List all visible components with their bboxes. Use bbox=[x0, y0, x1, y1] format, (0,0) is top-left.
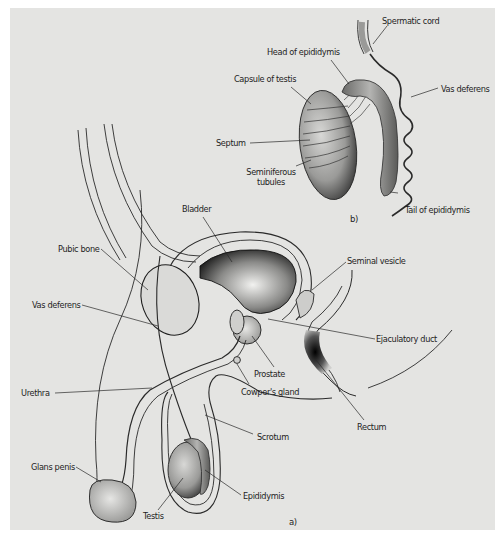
label-seminal-vesicle: Seminal vesicle bbox=[347, 256, 406, 266]
label-ejaculatory-duct: Ejaculatory duct bbox=[376, 334, 437, 344]
label-head-of-epididymis: Head of epididymis bbox=[267, 47, 340, 57]
label-capsule-of-testis: Capsule of testis bbox=[234, 74, 296, 84]
label-vas-deferens-b: Vas deferens bbox=[441, 84, 489, 94]
label-scrotum: Scrotum bbox=[257, 432, 289, 442]
label-spermatic-cord: Spermatic cord bbox=[382, 16, 439, 26]
label-seminiferous-tubules: Seminiferous tubules bbox=[243, 167, 299, 187]
label-septum: Septum bbox=[216, 138, 246, 148]
label-seminiferous-line-1: Seminiferous bbox=[243, 167, 299, 177]
label-vas-deferens-a: Vas deferens bbox=[32, 300, 80, 310]
label-rectum: Rectum bbox=[357, 422, 386, 432]
label-prostate: Prostate bbox=[254, 369, 285, 379]
panel-b-tag: b) bbox=[350, 214, 358, 224]
label-epididymis: Epididymis bbox=[243, 491, 284, 501]
label-urethra: Urethra bbox=[21, 388, 50, 398]
label-testis: Testis bbox=[143, 511, 164, 521]
label-pubic-bone: Pubic bone bbox=[58, 244, 100, 254]
label-tail-of-epididymis: Tail of epididymis bbox=[405, 205, 470, 215]
panel-a-tag: a) bbox=[289, 517, 297, 527]
label-glans-penis: Glans penis bbox=[31, 462, 75, 472]
label-seminiferous-line-2: tubules bbox=[243, 177, 299, 187]
label-cowpers-gland: Cowper's gland bbox=[241, 387, 299, 397]
label-bladder: Bladder bbox=[182, 204, 211, 214]
